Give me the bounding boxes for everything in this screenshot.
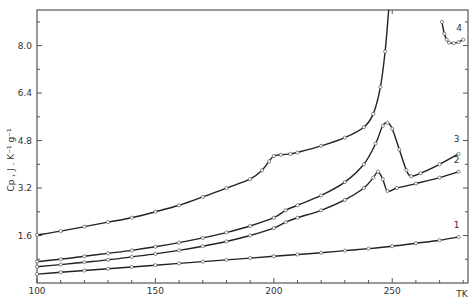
axes xyxy=(37,10,468,283)
data-point xyxy=(296,253,299,256)
data-point xyxy=(59,258,62,261)
data-point xyxy=(106,258,109,261)
data-point xyxy=(443,32,446,35)
y-tick-label: 6.4 xyxy=(18,88,33,98)
data-point xyxy=(249,178,252,181)
data-point xyxy=(362,163,365,166)
data-point xyxy=(154,245,157,248)
data-point xyxy=(362,126,365,129)
data-point xyxy=(177,241,180,244)
x-tick-label: 250 xyxy=(384,286,401,296)
data-point xyxy=(59,263,62,266)
data-point xyxy=(320,251,323,254)
data-point xyxy=(154,252,157,255)
data-point xyxy=(384,50,387,53)
data-point xyxy=(59,229,62,232)
data-point xyxy=(296,151,299,154)
data-point xyxy=(177,204,180,207)
data-point xyxy=(35,260,38,263)
curve-label-1: 1 xyxy=(454,220,460,230)
data-point xyxy=(260,169,263,172)
x-tick-label: 200 xyxy=(265,286,282,296)
data-point xyxy=(272,216,275,219)
data-point xyxy=(35,272,38,275)
data-point xyxy=(284,221,287,224)
data-point xyxy=(374,142,377,145)
data-point xyxy=(398,148,401,151)
series-4 xyxy=(35,10,388,237)
data-point xyxy=(201,195,204,198)
data-curves xyxy=(35,10,464,276)
data-point xyxy=(419,172,422,175)
data-point xyxy=(272,154,275,157)
data-point xyxy=(320,144,323,147)
data-point xyxy=(440,20,443,23)
data-point xyxy=(362,186,365,189)
data-point xyxy=(296,204,299,207)
data-point xyxy=(320,209,323,212)
data-point xyxy=(272,255,275,258)
data-point xyxy=(447,41,450,44)
data-point xyxy=(225,231,228,234)
data-point xyxy=(59,271,62,274)
cp-temperature-chart: 1001502002501.63.24.86.48.0 4321 TK Cp ,… xyxy=(0,0,475,299)
data-point xyxy=(381,124,384,127)
data-point xyxy=(372,176,375,179)
data-point xyxy=(457,40,460,43)
curve-label-4: 4 xyxy=(456,23,462,33)
data-point xyxy=(130,216,133,219)
data-point xyxy=(249,224,252,227)
data-point xyxy=(225,186,228,189)
data-point xyxy=(272,227,275,230)
data-point xyxy=(438,163,441,166)
curve-label-3: 3 xyxy=(454,134,460,144)
data-point xyxy=(106,252,109,255)
y-tick-label: 4.8 xyxy=(18,136,33,146)
y-tick-label: 1.6 xyxy=(18,231,33,241)
y-axis-title: Cp , J . K⁻¹ g⁻¹ xyxy=(6,128,16,191)
y-tick-label: 8.0 xyxy=(18,41,33,51)
data-point xyxy=(343,198,346,201)
data-point xyxy=(414,242,417,245)
data-point xyxy=(395,186,398,189)
data-point xyxy=(201,260,204,263)
x-tick-label: 150 xyxy=(147,286,164,296)
data-point xyxy=(391,245,394,248)
data-point xyxy=(376,170,379,173)
curve-label-2: 2 xyxy=(454,155,460,165)
data-point xyxy=(35,265,38,268)
data-point xyxy=(249,234,252,237)
data-point xyxy=(154,264,157,267)
data-point xyxy=(154,210,157,213)
data-point xyxy=(225,240,228,243)
data-point xyxy=(83,269,86,272)
plot-frame xyxy=(37,10,468,283)
data-point xyxy=(410,175,413,178)
data-point xyxy=(83,255,86,258)
data-point xyxy=(452,42,455,45)
data-point xyxy=(249,256,252,259)
data-point xyxy=(391,127,394,130)
data-point xyxy=(279,153,282,156)
series-3 xyxy=(35,121,460,263)
data-point xyxy=(267,160,270,163)
data-point xyxy=(462,38,465,41)
data-point xyxy=(35,233,38,236)
data-point xyxy=(386,189,389,192)
data-point xyxy=(445,38,448,41)
data-point xyxy=(201,236,204,239)
data-point xyxy=(343,136,346,139)
data-point xyxy=(284,209,287,212)
data-point xyxy=(367,247,370,250)
data-point xyxy=(130,265,133,268)
data-point xyxy=(225,258,228,261)
series-1 xyxy=(35,235,460,275)
data-point xyxy=(177,262,180,265)
x-tick-label: 100 xyxy=(28,286,45,296)
data-point xyxy=(320,194,323,197)
data-point xyxy=(343,181,346,184)
data-point xyxy=(83,225,86,228)
data-point xyxy=(405,169,408,172)
x-axis-title: TK xyxy=(455,289,468,299)
data-point xyxy=(386,121,389,124)
